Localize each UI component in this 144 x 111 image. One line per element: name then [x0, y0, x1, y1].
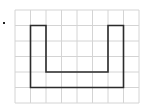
grid-lines [15, 10, 139, 103]
grid-diagram [0, 0, 144, 111]
